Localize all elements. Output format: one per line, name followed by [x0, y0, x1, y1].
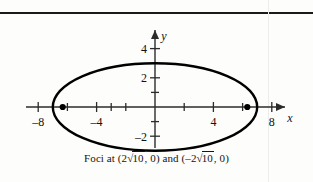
- x-tick-label-4: 4: [210, 115, 216, 129]
- y-axis-arrow: [151, 30, 159, 39]
- y-tick-label-neg2: –2: [134, 130, 147, 144]
- focus-point-left: [60, 104, 66, 110]
- x-tick-label-neg8: –8: [31, 115, 44, 129]
- x-axis-name: x: [286, 111, 293, 125]
- radical-group-second: √10: [197, 152, 214, 164]
- x-tick-label-neg4: –4: [90, 115, 103, 129]
- x-axis-arrow: [276, 103, 285, 111]
- x-tick-label-8: 8: [269, 115, 275, 129]
- y-tick-label-2: 2: [141, 71, 147, 85]
- radicand-first: 10: [132, 151, 144, 164]
- caption-middle: , 0) and (–2: [145, 152, 197, 164]
- figure-page: –8 –4 4 8 4 2 –2 x y Foci at (2√10, 0) a…: [0, 0, 313, 182]
- y-axis-name: y: [160, 29, 167, 43]
- figure-caption: Foci at (2√10, 0) and (–2√10, 0): [0, 152, 313, 164]
- caption-suffix: , 0): [214, 152, 229, 164]
- page-top-rule: [0, 12, 313, 14]
- focus-point-right: [244, 104, 250, 110]
- radical-group-first: √10: [127, 152, 144, 164]
- caption-prefix: Foci at (2: [84, 152, 127, 164]
- y-tick-label-4: 4: [141, 42, 147, 56]
- radicand-second: 10: [202, 151, 214, 164]
- ellipse-graph: –8 –4 4 8 4 2 –2 x y: [0, 18, 313, 154]
